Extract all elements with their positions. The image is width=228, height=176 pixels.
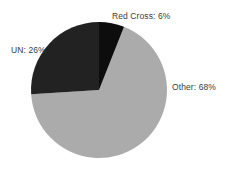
pie-label-un: UN: 26% xyxy=(11,45,46,55)
pie-chart: Red Cross: 6% UN: 26% Other: 68% xyxy=(0,0,228,176)
pie-label-other: Other: 68% xyxy=(172,82,216,92)
pie-slice-un[interactable] xyxy=(31,22,99,94)
pie-slices xyxy=(31,22,167,158)
pie-label-red-cross: Red Cross: 6% xyxy=(112,11,170,21)
